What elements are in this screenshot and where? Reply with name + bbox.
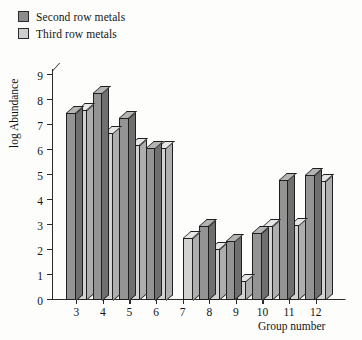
- bar-front-face: [183, 238, 193, 301]
- floor-depth-edge: [335, 291, 353, 300]
- x-axis-tick: [76, 300, 77, 304]
- bar-10-second-row: [252, 233, 262, 301]
- y-axis-tick: [47, 74, 52, 75]
- bar-side-face: [288, 174, 295, 300]
- x-axis-tick: [289, 300, 290, 304]
- bar-side-face: [102, 86, 109, 300]
- bar-8-second-row: [199, 226, 209, 300]
- x-axis-tick-label: 9: [233, 306, 239, 318]
- y-axis-tick-label: 9: [37, 70, 43, 82]
- x-axis-tick: [156, 300, 157, 304]
- x-axis-tick: [209, 300, 210, 304]
- y-axis-tick: [47, 124, 52, 125]
- bar-4-second-row: [93, 93, 103, 301]
- bar-front-face: [305, 175, 315, 300]
- y-axis-tick: [47, 274, 52, 275]
- y-axis-tick: [47, 299, 52, 300]
- y-axis-tick: [47, 174, 52, 175]
- x-axis-tick: [183, 300, 184, 304]
- bar-front-face: [146, 148, 156, 301]
- bar-side-face: [299, 219, 306, 300]
- x-axis-tick-label: 6: [153, 306, 159, 318]
- bar-side-face: [262, 226, 269, 300]
- x-axis-tick: [103, 300, 104, 304]
- y-axis-tick-label: 5: [37, 170, 43, 182]
- y-axis-tick-label: 4: [37, 195, 43, 207]
- bar-11-second-row: [279, 180, 289, 300]
- bar-side-face: [326, 175, 333, 300]
- x-axis-tick: [262, 300, 263, 304]
- x-axis-tick: [236, 300, 237, 304]
- bar-side-face: [140, 139, 147, 300]
- bar-front-face: [279, 180, 289, 300]
- y-axis-tick: [47, 224, 52, 225]
- bar-front-face: [252, 233, 262, 301]
- x-axis-tick-label: 4: [100, 306, 106, 318]
- bar-7-third-row: [183, 238, 193, 301]
- bar-side-face: [315, 169, 322, 300]
- bar-side-face: [155, 141, 162, 300]
- y-axis-tick: [47, 99, 52, 100]
- bar-front-face: [119, 118, 129, 301]
- y-axis-tick: [47, 249, 52, 250]
- legend-label-second-row: Second row metals: [36, 11, 125, 23]
- bar-front-face: [66, 113, 76, 301]
- y-axis-tick-label: 0: [37, 295, 43, 307]
- bar-side-face: [113, 126, 120, 300]
- bar-3-second-row: [66, 113, 76, 301]
- y-axis-tick-label: 2: [37, 245, 43, 257]
- y-axis-tick-label: 1: [37, 270, 43, 282]
- y-axis-tick-label: 3: [37, 220, 43, 232]
- bar-front-face: [93, 93, 103, 301]
- x-axis-tick-label: 11: [284, 306, 295, 318]
- bar-side-face: [129, 111, 136, 300]
- x-axis-tick: [129, 300, 130, 304]
- x-axis-tick-label: 5: [127, 306, 133, 318]
- x-axis-tick-label: 8: [206, 306, 212, 318]
- bar-side-face: [87, 104, 94, 300]
- bar-chart: Second row metals Third row metals log A…: [0, 0, 362, 340]
- bar-9-second-row: [226, 241, 236, 300]
- bar-6-second-row: [146, 148, 156, 301]
- x-axis-tick-label: 3: [73, 306, 79, 318]
- y-axis-title: log Abundance: [8, 79, 20, 148]
- bar-side-face: [220, 243, 227, 300]
- x-axis-title: Group number: [258, 320, 325, 332]
- bar-side-face: [235, 235, 242, 300]
- y-axis-tick-label: 7: [37, 120, 43, 132]
- chart-legend: Second row metals Third row metals: [18, 8, 125, 42]
- plot-area: 01234567893456789101112: [52, 63, 344, 300]
- y-axis-tick-label: 6: [37, 145, 43, 157]
- legend-swatch-second-row-icon: [18, 11, 29, 22]
- y-axis-top-cap: [52, 63, 69, 71]
- y-axis-line: [52, 69, 53, 300]
- x-axis-tick-label: 12: [310, 306, 322, 318]
- y-axis-tick: [47, 149, 52, 150]
- bar-side-face: [193, 231, 200, 300]
- bar-side-face: [166, 141, 173, 300]
- legend-label-third-row: Third row metals: [36, 28, 117, 40]
- bar-side-face: [209, 220, 216, 300]
- bar-12-second-row: [305, 175, 315, 300]
- legend-item-third-row: Third row metals: [18, 25, 125, 42]
- x-axis-tick-label: 7: [180, 306, 186, 318]
- x-axis-tick: [316, 300, 317, 304]
- bar-side-face: [76, 106, 83, 300]
- bar-front-face: [226, 241, 236, 300]
- y-axis-tick-label: 8: [37, 95, 43, 107]
- x-axis-tick-label: 10: [257, 306, 269, 318]
- bar-5-second-row: [119, 118, 129, 301]
- legend-item-second-row: Second row metals: [18, 8, 125, 25]
- legend-swatch-third-row-icon: [18, 28, 29, 39]
- y-axis-tick: [47, 199, 52, 200]
- bar-front-face: [199, 226, 209, 300]
- bar-side-face: [273, 220, 280, 300]
